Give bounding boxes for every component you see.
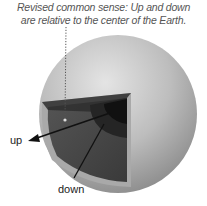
down-label: down <box>58 183 84 195</box>
pointer-dot <box>63 118 66 121</box>
up-label: up <box>10 134 22 146</box>
up-arrowhead-icon <box>28 134 40 142</box>
earth-diagram <box>0 0 207 206</box>
